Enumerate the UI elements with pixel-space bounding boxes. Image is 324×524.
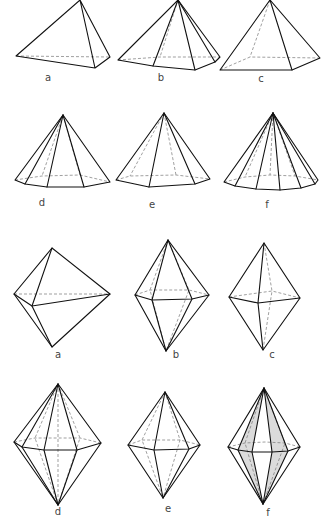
hidden-edge <box>229 291 300 298</box>
pyramid-label-c: c <box>258 73 264 84</box>
visible-edge <box>224 113 318 190</box>
visible-edge <box>273 113 315 184</box>
bipyramid-figure-b: b <box>135 240 209 360</box>
bipyramid-figure-d: d <box>14 384 101 517</box>
bipyramid-label-b: b <box>173 349 179 360</box>
hidden-edge <box>58 384 80 505</box>
visible-edge <box>14 442 101 450</box>
bipyramid-label-a: a <box>55 349 61 360</box>
pyramid-label-b: b <box>158 72 164 83</box>
hidden-edge <box>228 442 300 447</box>
bipyramid-figure-e: e <box>128 392 200 514</box>
visible-edge <box>273 113 280 190</box>
bipyramid-figure-a: a <box>14 248 110 360</box>
pyramid-figure-c: c <box>220 0 320 84</box>
hidden-edge <box>263 243 272 350</box>
pyramid-figure-f: f <box>224 113 318 210</box>
visible-edge <box>164 113 195 184</box>
visible-edge <box>229 243 300 350</box>
visible-edge <box>220 0 320 70</box>
visible-edge <box>22 384 58 505</box>
hidden-edge <box>166 240 189 351</box>
pyramid-figure-e: e <box>116 113 210 210</box>
visible-edge <box>258 243 264 350</box>
hidden-edge <box>130 113 164 176</box>
pyramids-row-group: abcdef <box>15 0 320 210</box>
visible-edge <box>14 294 110 306</box>
visible-edge <box>128 392 200 498</box>
polyhedra-diagram: abcdef abcdef <box>0 0 324 524</box>
bipyramid-label-c: c <box>269 349 275 360</box>
visible-edge <box>58 384 77 505</box>
visible-edge <box>153 0 178 66</box>
bipyramid-figure-c: c <box>229 243 300 360</box>
visible-edge <box>235 113 273 186</box>
hidden-edge <box>42 115 63 176</box>
pyramid-label-e: e <box>149 199 155 210</box>
visible-edge <box>273 113 301 188</box>
pyramid-label-d: d <box>39 197 45 208</box>
bipyramid-label-e: e <box>165 503 171 514</box>
visible-edge <box>152 240 168 351</box>
bipyramid-figure-f: f <box>228 388 300 518</box>
bipyramids-row-group: abcdef <box>14 240 300 518</box>
pyramid-label-a: a <box>45 72 51 83</box>
hidden-edge <box>220 57 320 70</box>
bipyramid-label-d: d <box>55 506 61 517</box>
pyramid-figure-d: d <box>15 115 110 208</box>
hidden-edge <box>16 56 110 57</box>
hidden-edge <box>135 290 209 295</box>
hidden-edge <box>245 113 273 177</box>
hidden-edge <box>250 0 270 57</box>
pyramid-label-f: f <box>265 199 269 210</box>
visible-edge <box>229 297 300 303</box>
visible-edge <box>154 392 165 498</box>
bipyramid-label-f: f <box>266 507 270 518</box>
visible-edge <box>14 384 101 505</box>
visible-edge <box>118 0 220 70</box>
pyramid-figure-b: b <box>118 0 220 83</box>
visible-edge <box>14 248 110 347</box>
hidden-edge <box>128 440 200 445</box>
pyramid-figure-a: a <box>16 0 110 83</box>
visible-edge <box>63 115 84 187</box>
visible-edge <box>178 0 195 70</box>
visible-edge <box>178 0 215 62</box>
hidden-edge <box>118 57 220 60</box>
visible-edge <box>25 115 63 184</box>
visible-edge <box>16 0 110 68</box>
visible-edge <box>135 295 209 300</box>
visible-edge <box>228 388 300 504</box>
visible-edge <box>270 0 292 70</box>
